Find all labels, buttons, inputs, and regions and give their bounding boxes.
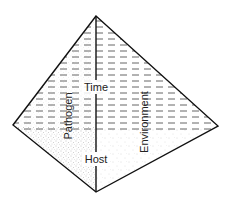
disease-pyramid-diagram: Time Pathogen Environment Host: [0, 0, 232, 209]
label-host: Host: [85, 153, 108, 165]
label-environment: Environment: [138, 91, 150, 153]
pyramid-figure: Time Pathogen Environment Host: [0, 0, 232, 209]
label-pathogen: Pathogen: [62, 92, 74, 139]
label-time: Time: [84, 81, 108, 93]
